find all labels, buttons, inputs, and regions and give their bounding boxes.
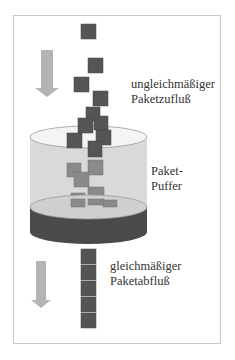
outflow-label-line1: gleichmäßiger	[110, 259, 182, 274]
outflow-label: gleichmäßiger Paketabfluß	[110, 259, 182, 289]
outflow-label-line2: Paketabfluß	[110, 274, 182, 289]
buffer-label: Paket- Puffer	[151, 164, 183, 194]
inflow-arrow-icon	[35, 50, 59, 97]
incoming-packets	[74, 24, 108, 121]
outgoing-packets	[81, 249, 96, 328]
outflow-arrow-icon	[31, 261, 51, 308]
buffer-fill	[30, 195, 147, 244]
inflow-label: ungleichmäßiger Paketzufluß	[131, 77, 215, 107]
buffer-label-line1: Paket-	[151, 164, 183, 179]
buffer-label-line2: Puffer	[151, 179, 183, 194]
inflow-label-line1: ungleichmäßiger	[131, 77, 215, 92]
inflow-label-line2: Paketzufluß	[131, 92, 215, 107]
diagram-graphic	[0, 0, 235, 360]
